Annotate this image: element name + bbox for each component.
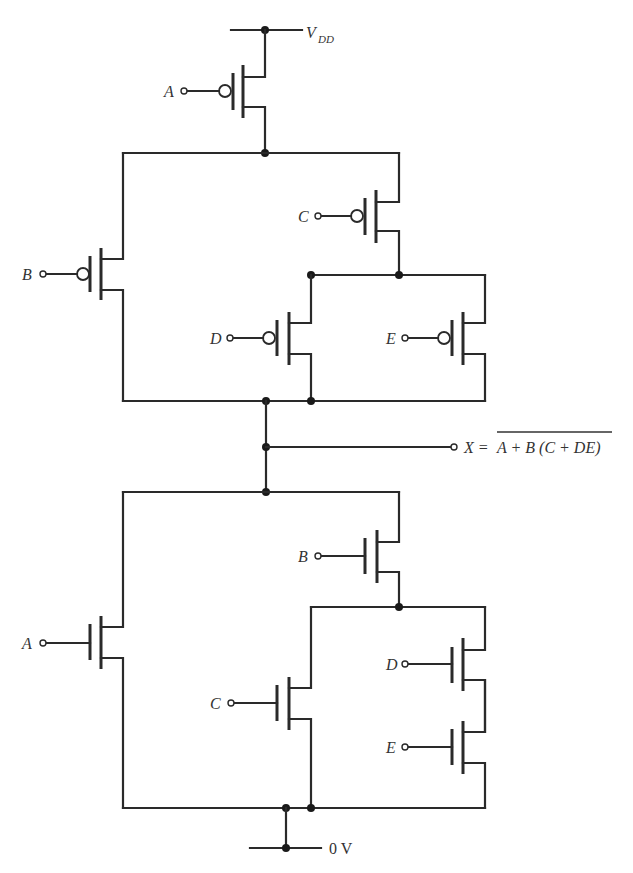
input-terminal-c[interactable] (315, 213, 321, 219)
output-terminal-x[interactable] (451, 444, 457, 450)
pmos-transistor-d: D (209, 275, 311, 401)
gate-label-d: D (209, 330, 222, 347)
gate-label-a-n: A (21, 635, 32, 652)
input-terminal-d-n[interactable] (402, 661, 408, 667)
nmos-transistor-d: D (385, 607, 485, 732)
gate-label-b: B (22, 266, 32, 283)
ground-label: 0 V (329, 840, 353, 857)
input-terminal-b[interactable] (40, 271, 46, 277)
vdd-subscript: DD (317, 33, 334, 45)
gate-label-b-n: B (298, 548, 308, 565)
input-terminal-e-n[interactable] (402, 744, 408, 750)
nmos-transistor-a: A (21, 492, 123, 808)
gate-label-c: C (298, 208, 309, 225)
pmos-transistor-b: B (22, 153, 123, 401)
vdd-rail: V DD (231, 24, 334, 45)
input-terminal-c-n[interactable] (228, 700, 234, 706)
nmos-transistor-e: E (385, 680, 485, 808)
nmos-transistor-c: C (210, 607, 311, 808)
gate-label-a: A (163, 83, 174, 100)
cmos-schematic: V DD A B C (0, 0, 633, 873)
gate-label-c-n: C (210, 695, 221, 712)
gate-label-e-n: E (385, 739, 396, 756)
input-terminal-e[interactable] (402, 335, 408, 341)
pmos-transistor-e: E (385, 275, 485, 401)
input-terminal-d[interactable] (227, 335, 233, 341)
ground-rail: 0 V (123, 804, 485, 857)
output-lhs: X = (463, 439, 489, 456)
output-node: X = A + B (C + DE) (262, 401, 612, 492)
input-terminal-b-n[interactable] (315, 553, 321, 559)
nmos-transistor-b: B (298, 492, 399, 607)
input-terminal-a-n[interactable] (40, 640, 46, 646)
gate-label-d-n: D (385, 656, 398, 673)
gate-label-e: E (385, 330, 396, 347)
pmos-transistor-a: A (163, 30, 265, 153)
input-terminal-a[interactable] (181, 88, 187, 94)
output-expression: A + B (C + DE) (496, 439, 601, 457)
vdd-label: V (306, 24, 318, 41)
pmos-transistor-c: C (298, 153, 399, 275)
